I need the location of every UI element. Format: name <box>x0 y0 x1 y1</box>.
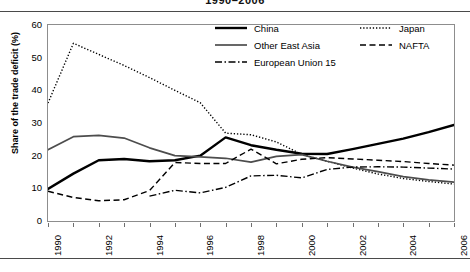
y-tick-label: 0 <box>12 216 42 225</box>
x-tick-mark <box>302 223 303 227</box>
x-tick-mark <box>200 223 201 227</box>
x-tick-label: 1994 <box>154 235 165 256</box>
x-tick-mark <box>73 223 74 227</box>
x-tick-label: 1998 <box>255 235 266 256</box>
x-tick-mark <box>378 223 379 227</box>
page-title-text: 1990–2006 <box>205 0 265 6</box>
legend-label: Other East Asia <box>254 40 320 51</box>
legend-label: NAFTA <box>399 40 429 51</box>
legend-label: China <box>254 23 279 34</box>
legend-line-swatch <box>214 56 248 68</box>
y-tick-label: 20 <box>12 151 42 160</box>
chart-legend: ChinaJapanOther East AsiaNAFTAEuropean U… <box>214 22 446 72</box>
legend-line-swatch <box>359 22 393 34</box>
legend-line-swatch <box>214 39 248 51</box>
y-tick-label: 10 <box>12 183 42 192</box>
x-tick-label: 2002 <box>357 235 368 256</box>
x-tick-label: 2000 <box>306 235 317 256</box>
header-divider <box>0 11 470 12</box>
x-tick-label: 2004 <box>407 235 418 256</box>
legend-line-swatch <box>214 22 248 34</box>
x-tick-mark <box>150 223 151 227</box>
y-tick-label: 40 <box>12 85 42 94</box>
footer-divider <box>0 258 470 259</box>
x-tick-mark <box>124 223 125 227</box>
x-axis-tick-labels: 199019921994199619982000200220042006 <box>47 228 455 258</box>
x-tick-mark <box>327 223 328 227</box>
x-tick-mark <box>429 223 430 227</box>
x-tick-mark <box>251 223 252 227</box>
x-tick-mark <box>175 223 176 227</box>
x-tick-label: 1990 <box>52 235 63 256</box>
legend-label: European Union 15 <box>254 57 336 68</box>
chart-screenshot: 1990–2006 Share of the trade deficit (%)… <box>0 0 470 272</box>
x-tick-mark <box>276 223 277 227</box>
legend-label: Japan <box>399 23 425 34</box>
legend-line-swatch <box>359 39 393 51</box>
x-tick-mark <box>226 223 227 227</box>
x-axis-tick-marks <box>47 223 455 227</box>
x-tick-mark <box>454 223 455 227</box>
x-tick-label: 1996 <box>204 235 215 256</box>
y-axis-tick-labels: 0102030405060 <box>10 24 42 222</box>
x-tick-label: 2006 <box>458 235 469 256</box>
x-tick-mark <box>353 223 354 227</box>
x-tick-label: 1992 <box>103 235 114 256</box>
y-tick-label: 30 <box>12 118 42 127</box>
y-tick-label: 50 <box>12 53 42 62</box>
series-line-european-union-15 <box>150 167 455 196</box>
x-tick-mark <box>403 223 404 227</box>
page-title: 1990–2006 <box>0 0 470 10</box>
x-tick-mark <box>99 223 100 227</box>
y-tick-label: 60 <box>12 20 42 29</box>
x-tick-mark <box>48 223 49 227</box>
